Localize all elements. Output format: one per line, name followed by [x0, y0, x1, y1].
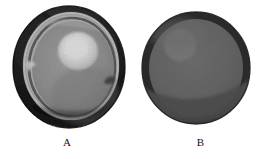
panel-a-caption: A: [0, 136, 134, 148]
panel-b-caption: B: [134, 136, 267, 148]
panel-a-image: [0, 0, 134, 136]
figure-root: A: [0, 0, 267, 159]
panel-a: A: [0, 0, 134, 159]
panel-b: B: [134, 0, 267, 159]
panel-b-image: [134, 0, 267, 136]
